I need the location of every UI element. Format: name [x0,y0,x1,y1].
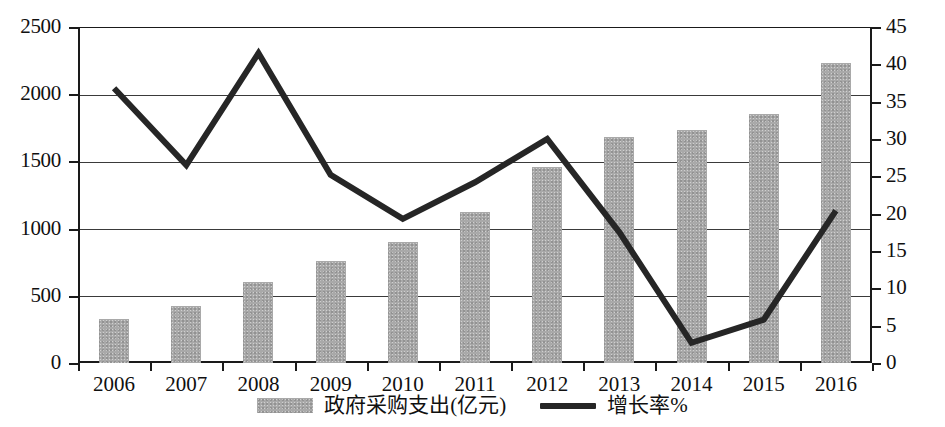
left-axis-label: 0 [51,352,61,373]
x-axis-label-2008: 2008 [237,372,279,396]
bar-2011 [460,212,490,363]
right-axis-tick [872,326,881,328]
right-axis-tick [872,251,881,253]
right-axis-label: 25 [886,165,906,186]
x-axis-tick [511,363,513,371]
chart-container: 0500100015002000250005101520253035404520… [0,0,945,427]
x-axis-tick [367,363,369,371]
x-axis-tick [583,363,585,371]
bar-2012 [532,167,562,363]
legend-entry-expenditure: 政府采购支出(亿元) [257,394,506,417]
right-axis-tick [872,27,881,29]
left-axis-tick [69,27,78,29]
bar-2016 [821,63,851,363]
bar-2014 [677,130,707,363]
left-axis-tick [69,296,78,298]
gridline-2000 [80,95,870,96]
right-axis-label: 20 [886,203,906,224]
x-axis-tick [655,363,657,371]
right-axis-label: 5 [886,315,896,336]
bar-2013 [604,137,634,363]
left-axis-tick [69,229,78,231]
left-axis-label: 1000 [20,218,61,239]
legend-bar-swatch-icon [257,398,313,413]
left-axis-tick [69,161,78,163]
x-axis-label-2006: 2006 [93,372,135,396]
right-axis-tick [872,288,881,290]
x-axis-label-2016: 2016 [815,372,857,396]
x-axis-label-2012: 2012 [526,372,568,396]
x-axis-tick [728,363,730,371]
bar-2009 [316,261,346,363]
right-axis-tick [872,102,881,104]
x-axis-tick [439,363,441,371]
legend-line-swatch-icon [540,403,596,409]
right-axis-label: 10 [886,277,906,298]
x-axis-label-2007: 2007 [165,372,207,396]
x-axis-tick [150,363,152,371]
left-axis-label: 1500 [20,150,61,171]
x-axis-tick [872,363,874,371]
right-axis-tick [872,214,881,216]
bar-2010 [388,242,418,363]
x-axis-tick [295,363,297,371]
right-axis-label: 30 [886,128,906,149]
bar-2015 [749,114,779,363]
left-axis-tick [69,363,78,365]
x-axis-tick [78,363,80,371]
right-axis-label: 45 [886,16,906,37]
right-axis-tick [872,176,881,178]
bar-2007 [171,306,201,363]
legend-label-growth-rate: 增长率% [607,394,688,417]
bar-2008 [243,282,273,363]
legend-label-expenditure: 政府采购支出(亿元) [324,394,506,417]
left-axis-label: 500 [30,285,61,306]
bar-2006 [99,319,129,363]
x-axis-tick [222,363,224,371]
right-axis-label: 0 [886,352,896,373]
right-axis-tick [872,64,881,66]
right-axis-label: 35 [886,91,906,112]
left-axis-label: 2500 [20,16,61,37]
left-axis-tick [69,94,78,96]
legend-entry-growth-rate: 增长率% [540,394,688,417]
right-axis-label: 15 [886,240,906,261]
chart-legend: 政府采购支出(亿元) 增长率% [0,394,945,417]
x-axis-tick [800,363,802,371]
x-axis-label-2015: 2015 [743,372,785,396]
right-axis-tick [872,139,881,141]
right-axis-label: 40 [886,53,906,74]
left-axis-label: 2000 [20,83,61,104]
